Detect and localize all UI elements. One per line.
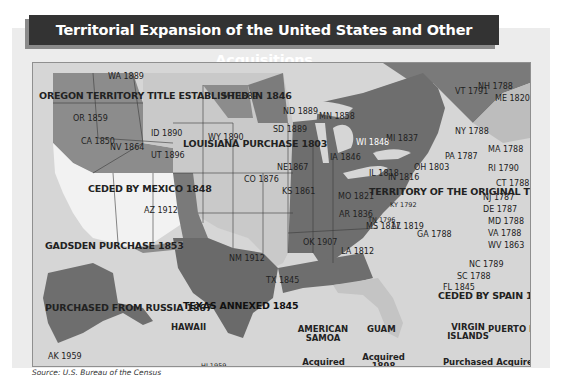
us-expansion-map-graphic [33,63,530,366]
label-purchased-russia: PURCHASED FROM RUSSIA 1867 [45,303,212,313]
callout-de: DE 1787 [483,206,517,214]
state-ga: GA 1788 [417,231,452,239]
state-pa: PA 1787 [445,153,478,161]
state-ky: KY 1792 [390,202,417,209]
callout-md: MD 1788 [488,218,524,226]
state-wa: WA 1889 [108,73,144,81]
state-ny: NY 1788 [455,128,489,136]
label-gadsden: GADSDEN PURCHASE 1853 [45,241,184,251]
callout-wv: WV 1863 [488,242,524,250]
state-mo: MO 1821 [338,193,374,201]
state-co: CO 1876 [244,176,279,184]
state-sd: SD 1889 [273,126,307,134]
state-la: LA 1812 [341,248,374,256]
state-fl: FL 1845 [443,284,475,292]
state-nd: ND 1889 [283,108,318,116]
state-ut: UT 1896 [151,152,185,160]
state-id: ID 1890 [151,130,182,138]
state-in: IN 1816 [388,174,419,182]
callout-va: VA 1788 [488,230,521,238]
state-ks: KS 1861 [282,188,315,196]
callout-nj: NJ 1787 [483,194,514,202]
state-mt: MT 1889 [223,93,258,101]
inset-virgin-islands-name: VIRGIN ISLANDS [443,323,493,341]
state-ia: IA 1846 [330,154,361,162]
inset-guam-name: GUAM [367,325,396,334]
inset-hawaii-name: HAWAII [171,323,206,332]
inset-samoa-note: Acquired 1899 [301,358,346,367]
inset-puerto-rico-note: Acquired 1898 [495,358,531,367]
state-oh: OH 1803 [414,164,449,172]
state-tx: TX 1845 [266,277,299,285]
callout-ma: MA 1788 [488,146,523,154]
inset-virgin-islands-note: Purchased 1917 [438,358,498,367]
state-or: OR 1859 [73,115,108,123]
inset-samoa-name: AMERICAN SAMOA [293,325,353,343]
inset-guam-note: Acquired 1898 [361,353,406,367]
inset-puerto-rico-name: PUERTO RICO [488,325,531,334]
label-louisiana-purchase: LOUISIANA PURCHASE 1803 [183,139,327,149]
state-ar: AR 1836 [339,211,373,219]
callout-ct: CT 1788 [496,180,529,188]
title-bar: Territorial Expansion of the United Stat… [29,15,499,45]
state-nh: NH 1788 [478,83,513,91]
state-hi: HI 1959 [201,363,226,367]
state-nm: NM 1912 [229,255,265,263]
state-wi: WI 1848 [356,139,389,147]
label-ceded-spain: CEDED BY SPAIN 1819 [438,291,531,301]
label-ceded-mexico: CEDED BY MEXICO 1848 [88,184,212,194]
callout-sc: SC 1788 [457,273,491,281]
state-ok: OK 1907 [303,239,337,247]
state-ak: AK 1959 [48,353,82,361]
map: OREGON TERRITORY TITLE ESTABLISHED IN 18… [32,62,531,367]
state-nv: NV 1864 [110,144,144,152]
state-mn: MN 1858 [319,113,355,121]
source-note: Source: U.S. Bureau of the Census [32,368,161,377]
state-ne: NE1867 [277,164,308,172]
callout-ri: RI 1790 [488,165,519,173]
callout-nc: NC 1789 [469,261,503,269]
state-mi: MI 1837 [386,135,418,143]
state-az: AZ 1912 [144,207,178,215]
state-me: ME 1820 [495,95,530,103]
state-wy: WY 1890 [208,134,244,142]
